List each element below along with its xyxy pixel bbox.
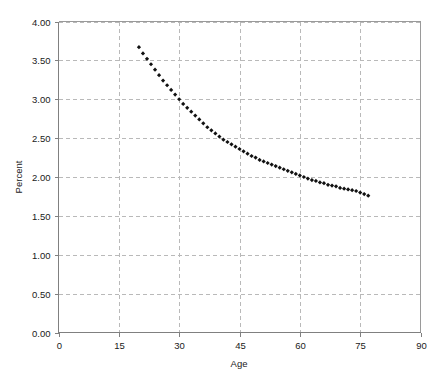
data-point-marker [169,88,173,92]
data-point-marker [354,189,358,193]
y-axis-tick-labels: 0.000.501.001.502.002.503.003.504.00 [32,17,51,339]
data-point-marker [326,183,330,187]
x-tick-label: 90 [416,340,427,351]
data-point-marker [249,154,253,158]
data-point-marker [141,51,145,55]
data-point-marker [282,167,286,171]
x-tick-label: 0 [57,340,62,351]
y-axis-title: Percent [13,160,24,193]
x-axis-tick-labels: 0153045607590 [57,340,427,351]
data-point-marker [270,162,274,166]
data-point-marker [197,117,201,121]
x-axis-title: Age [231,358,248,369]
data-point-marker [233,145,237,149]
data-point-marker [185,106,189,110]
x-tick-label: 60 [295,340,306,351]
data-point-marker [258,158,262,162]
y-tick-label: 4.00 [32,17,51,28]
data-point-marker [290,170,294,174]
data-point-marker [181,102,185,106]
data-point-marker [153,68,157,72]
data-point-marker [213,131,217,135]
x-axis-ticks [60,333,422,337]
x-tick-label: 75 [355,340,366,351]
data-point-marker [253,155,257,159]
data-point-marker [262,159,266,163]
data-point-marker [318,180,322,184]
data-point-marker [346,187,350,191]
y-tick-label: 0.00 [32,328,51,339]
data-point-marker [241,149,245,153]
data-point-marker [189,110,193,114]
data-point-marker [322,181,326,185]
y-tick-label: 1.00 [32,250,51,261]
data-point-marker [274,164,278,168]
data-point-marker [358,190,362,194]
data-point-marker [342,187,346,191]
y-tick-label: 1.50 [32,211,51,222]
data-point-marker [149,62,153,66]
x-tick-label: 15 [114,340,125,351]
data-point-marker [177,97,181,101]
data-point-marker [330,183,334,187]
data-point-marker [157,73,161,77]
data-point-marker [201,121,205,125]
data-point-marker [338,186,342,190]
data-point-marker [294,172,298,176]
data-point-marker [310,178,314,182]
scatter-chart: 0.000.501.001.502.002.503.003.504.00 015… [0,0,448,379]
data-point-marker [278,166,282,170]
y-tick-label: 2.50 [32,133,51,144]
gridlines-horizontal [59,23,421,295]
chart-container: 0.000.501.001.502.002.503.003.504.00 015… [0,0,448,379]
data-point-marker [286,169,290,173]
y-tick-label: 0.50 [32,289,51,300]
data-point-marker [225,140,229,144]
y-tick-label: 3.50 [32,55,51,66]
data-point-marker [209,128,213,132]
data-point-marker [173,92,177,96]
y-axis-ticks [55,23,59,334]
data-point-marker [314,179,318,183]
x-tick-label: 30 [174,340,185,351]
data-point-marker [165,83,169,87]
data-series-markers [137,45,370,198]
x-tick-label: 45 [235,340,246,351]
data-point-marker [193,113,197,117]
data-point-marker [161,78,165,82]
data-point-marker [366,194,370,198]
data-point-marker [334,184,338,188]
data-point-marker [137,45,141,49]
data-point-marker [205,125,209,129]
data-point-marker [245,152,249,156]
plot-area-border [59,22,421,333]
y-tick-label: 3.00 [32,94,51,105]
data-point-marker [266,161,270,165]
y-tick-label: 2.00 [32,172,51,183]
gridlines-vertical [120,22,361,333]
data-point-marker [350,188,354,192]
data-point-marker [362,192,366,196]
data-point-marker [298,173,302,177]
data-point-marker [229,142,233,146]
data-point-marker [302,175,306,179]
